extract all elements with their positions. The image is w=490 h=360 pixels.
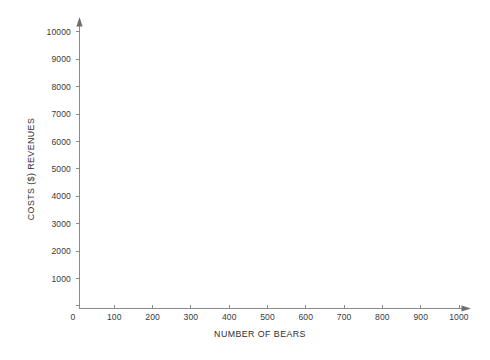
y-axis-title: COSTS ($) REVENUES xyxy=(26,118,36,220)
y-tick-label: 5000 xyxy=(51,164,71,174)
y-tick-label: 4000 xyxy=(51,191,71,201)
y-tick-label: 1000 xyxy=(51,274,71,284)
x-tick-label: 400 xyxy=(222,312,237,322)
y-tick-label: 6000 xyxy=(51,137,71,147)
y-tick-label: 7000 xyxy=(51,109,71,119)
y-tick-label: 10000 xyxy=(47,27,72,37)
x-tick-label: 200 xyxy=(145,312,160,322)
x-tick-label: 1000 xyxy=(449,312,469,322)
y-tick-label: 2000 xyxy=(51,246,71,256)
y-tick-label: 9000 xyxy=(51,54,71,64)
x-tick-label: 900 xyxy=(413,312,428,322)
x-tick-label: 700 xyxy=(337,312,352,322)
plot-area xyxy=(80,22,470,308)
origin-label: 0 xyxy=(71,312,76,322)
blank-graph-figure: 1000 2000 3000 4000 5000 6000 7000 8000 … xyxy=(0,0,490,360)
x-tick-label: 100 xyxy=(107,312,122,322)
x-tick-label: 800 xyxy=(375,312,390,322)
y-tick-label: 3000 xyxy=(51,219,71,229)
y-tick-label: 8000 xyxy=(51,82,71,92)
x-tick-label: 500 xyxy=(260,312,275,322)
x-tick-label: 600 xyxy=(298,312,313,322)
x-axis-title: NUMBER OF BEARS xyxy=(214,329,306,339)
x-tick-label: 300 xyxy=(184,312,199,322)
chart-canvas: 1000 2000 3000 4000 5000 6000 7000 8000 … xyxy=(0,0,490,360)
